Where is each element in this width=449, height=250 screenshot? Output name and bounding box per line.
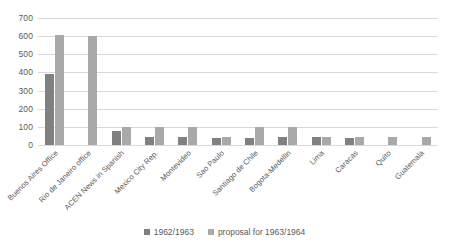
- y-tick-label: 700: [19, 14, 33, 23]
- x-tick-label-text: ACEN News in Spanish: [64, 149, 126, 211]
- legend-label: proposal for 1963/1964: [218, 228, 305, 237]
- x-axis: Buenos Aires OfficeRio de Janeiro office…: [38, 147, 438, 219]
- y-tick-label: 500: [19, 50, 33, 59]
- legend-swatch-icon: [144, 229, 150, 235]
- x-tick-label-text: Montevideo: [159, 149, 192, 182]
- x-tick-label-text: Lima: [309, 149, 326, 166]
- y-axis: 0100200300400500600700: [0, 18, 33, 145]
- y-tick-label: 300: [19, 86, 33, 95]
- bar-0: [145, 137, 154, 145]
- x-tick-label-text: Guatemala: [394, 149, 426, 181]
- y-tick-label: 100: [19, 123, 33, 132]
- bar-group: [38, 18, 71, 145]
- x-tick-label-text: Caracas: [334, 149, 360, 175]
- legend-swatch-icon: [208, 229, 214, 235]
- bar-0: [178, 137, 187, 145]
- bars-layer: [38, 18, 438, 145]
- bar-chart: 0100200300400500600700 Buenos Aires Offi…: [0, 0, 449, 250]
- bar-0: [212, 138, 221, 145]
- bar-0: [245, 138, 254, 145]
- bar-1: [55, 35, 64, 145]
- x-tick-label-text: Sao Paulo: [196, 149, 226, 179]
- legend-entry[interactable]: 1962/1963: [144, 228, 194, 237]
- bar-0: [112, 131, 121, 146]
- y-tick-label: 0: [28, 141, 33, 150]
- bar-group: [371, 18, 404, 145]
- bar-0: [278, 137, 287, 145]
- legend-label: 1962/1963: [154, 228, 194, 237]
- y-tick-label: 200: [19, 104, 33, 113]
- legend-entry[interactable]: proposal for 1963/1964: [208, 228, 305, 237]
- bar-group: [405, 18, 438, 145]
- bar-0: [345, 138, 354, 145]
- bar-group: [338, 18, 371, 145]
- bar-0: [45, 74, 54, 145]
- y-tick-label: 400: [19, 68, 33, 77]
- y-tick-label: 600: [19, 32, 33, 41]
- x-tick-label-text: Quito: [374, 149, 392, 167]
- chart-legend: 1962/1963proposal for 1963/1964: [0, 228, 449, 237]
- bar-0: [312, 137, 321, 145]
- bar-1: [88, 36, 97, 145]
